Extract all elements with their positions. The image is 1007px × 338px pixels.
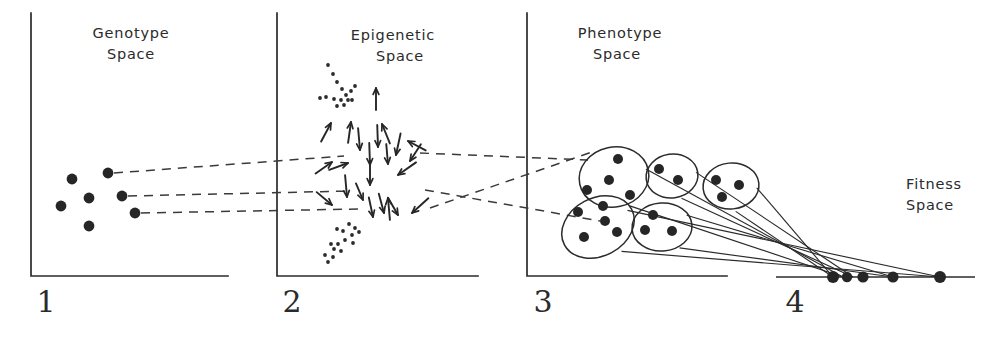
epigenetic-flow-arrow (367, 161, 373, 185)
fitness-point (842, 272, 852, 282)
epigenetic-stipple-point (339, 249, 343, 253)
epigenetic-to-phenotype-link (425, 190, 600, 221)
epigenetic-stipple-point (353, 226, 357, 230)
genotype-point (67, 174, 78, 185)
phenotype-point (673, 175, 683, 185)
epigenetic-stipple-point (332, 247, 336, 251)
epigenetic-flow-arrow (375, 125, 381, 147)
epigenetic-stipple-point (331, 72, 335, 76)
phenotype-point (612, 227, 622, 237)
phenotype-point (600, 216, 610, 226)
epigenetic-stipple-point (342, 103, 346, 107)
epigenetic-stipple-point (339, 98, 343, 102)
epigenetic-flow-arrow (379, 194, 385, 213)
genotype-to-epigenetic-link (114, 156, 344, 173)
fitness-point (934, 271, 946, 283)
epigenetic-stipple-point (323, 253, 327, 257)
panel-title-phenotype-line2: Space (593, 46, 641, 62)
epigenetic-stipple-point (343, 238, 347, 242)
epigenetic-stipple-point (324, 95, 328, 99)
genotype-point (56, 201, 67, 212)
epigenetic-stipple-point (341, 229, 345, 233)
phenotype-point (640, 225, 650, 235)
panel-title-genotype-line1: Genotype (92, 25, 169, 41)
phenotype-point (717, 192, 727, 202)
panel-numbers-group: 1 2 3 4 (36, 284, 804, 319)
fitness-point (827, 271, 839, 283)
epigenetic-stipple-point (329, 242, 333, 246)
epigenetic-stipple-point (340, 87, 344, 91)
arrow-shaft (377, 125, 378, 147)
panel-title-fitness-line1: Fitness (906, 176, 962, 192)
panel-number-2: 2 (282, 284, 301, 319)
epigenetic-to-phenotype-link (430, 151, 595, 208)
epigenetic-flow-arrow (398, 162, 416, 175)
panel-title-fitness-line2: Space (906, 197, 954, 213)
panel-axes-group (31, 13, 975, 277)
phenotype-point (667, 226, 677, 236)
figure-root: Genotype Space Epigenetic Space Phenotyp… (0, 0, 1007, 338)
epigenetic-flow-arrow (395, 133, 401, 155)
epigenetic-flow-arrow (317, 192, 332, 205)
epigenetic-flow-arrow (373, 88, 379, 110)
epigenetic-flow-arrow (382, 124, 390, 143)
cluster-to-fitness-link (682, 198, 853, 277)
epigenetic-stipple-point (332, 97, 336, 101)
epigenetic-flow-arrow (357, 128, 363, 150)
phenotype-point (582, 185, 592, 195)
epigenetic-stipple-point (326, 63, 330, 67)
phenotype-point (654, 164, 664, 174)
epigenetic-flow-arrow (344, 175, 350, 197)
epigenetic-stipple-point (331, 255, 335, 259)
epigenetic-stipple-point (357, 230, 361, 234)
phenotype-point (604, 175, 614, 185)
phenotype-point (625, 190, 635, 200)
epigenetic-flow-arrow (356, 183, 363, 200)
epigenetic-stipple-point (318, 96, 322, 100)
genotype-point (84, 221, 95, 232)
genotype-to-epigenetic-link (141, 209, 358, 213)
genotype-points-layer (56, 168, 141, 232)
epigenetic-stipple-point (349, 89, 353, 93)
epigenetic-stipple-point (344, 93, 348, 97)
epigenetic-stipple-point (350, 98, 354, 102)
phenotype-cluster (574, 140, 655, 213)
epigenetic-to-phenotype-link (420, 153, 588, 160)
genotype-point (103, 168, 114, 179)
epigenetic-stipple-point (336, 242, 340, 246)
evolution-spaces-diagram: Genotype Space Epigenetic Space Phenotyp… (0, 0, 1007, 338)
fitness-point (857, 271, 868, 282)
epigenetic-stipple-point (346, 98, 350, 102)
panel-number-1: 1 (36, 284, 55, 319)
epigenetic-flow-arrow (321, 123, 331, 142)
epigenetic-flow-arrow (347, 122, 353, 143)
phenotype-point (613, 154, 623, 164)
genotype-point (130, 208, 141, 219)
epigenetic-stipple-point (335, 104, 339, 108)
phenotype-point (734, 180, 744, 190)
panel-title-genotype-line2: Space (107, 46, 155, 62)
cluster-boundary (574, 140, 655, 213)
panel-title-epigenetic-line1: Epigenetic (351, 27, 435, 43)
phenotype-point (573, 207, 583, 217)
panel-number-4: 4 (785, 284, 804, 319)
phenotype-point (711, 175, 721, 185)
genotype-point (84, 193, 95, 204)
epigenetic-flow-arrow (412, 198, 428, 213)
phenotype-point (598, 201, 608, 211)
panel-title-epigenetic-line2: Space (376, 48, 424, 64)
epigenetic-stipple-point (326, 260, 330, 264)
cluster-to-fitness-link (628, 210, 940, 277)
epigenetic-flow-arrow (385, 144, 391, 164)
arrow-shaft (398, 162, 416, 175)
arrow-shaft (412, 198, 428, 213)
epigenetic-flow-arrow (369, 197, 375, 217)
phenotype-point (579, 232, 589, 242)
cluster-to-fitness-link (687, 215, 893, 277)
epigenetic-stipple-point (347, 222, 351, 226)
epigenetic-stipple-point (350, 233, 354, 237)
epigenetic-stipple-point (353, 84, 357, 88)
epigenetic-arrows-layer (316, 88, 429, 220)
fitness-point (887, 271, 898, 282)
epigenetic-stipple-point (351, 241, 355, 245)
